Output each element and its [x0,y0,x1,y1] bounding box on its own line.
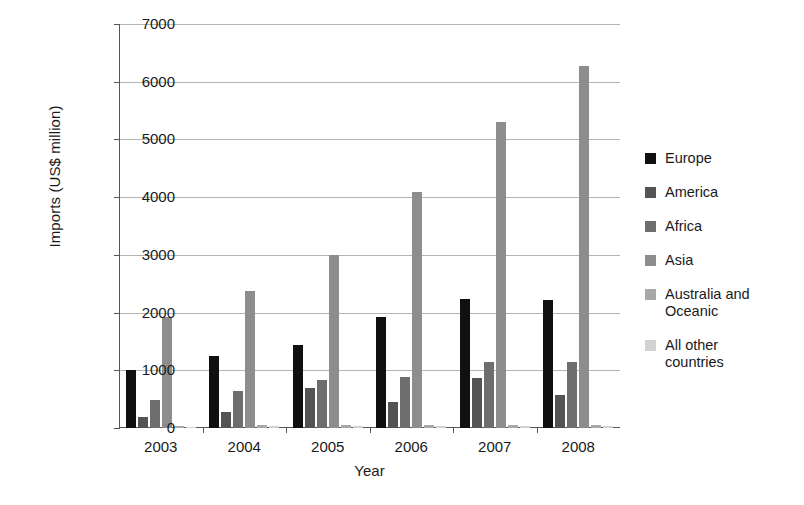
bar[interactable] [257,425,267,428]
bar[interactable] [245,291,255,428]
bar-group [203,24,287,428]
legend-item[interactable]: America [645,184,800,201]
plot-area [119,24,620,428]
bar-group [537,24,621,428]
bar[interactable] [520,426,530,428]
y-axis-title: Imports (US$ million) [46,27,63,327]
bar[interactable] [496,122,506,428]
bar[interactable] [567,362,577,428]
legend-swatch-icon [645,340,656,351]
bar[interactable] [400,377,410,428]
legend-swatch-icon [645,187,656,198]
legend-swatch-icon [645,255,656,266]
y-tick-label: 0 [115,420,175,435]
bar-group [286,24,370,428]
x-tick-mark [203,427,204,433]
legend-item[interactable]: All other countries [645,337,800,371]
x-tick-mark [537,427,538,433]
x-axis-title: Year [119,462,620,479]
y-tick-label: 4000 [115,189,175,204]
legend-item[interactable]: Europe [645,150,800,167]
y-tick-label: 7000 [115,16,175,31]
bar[interactable] [209,356,219,428]
x-tick-mark [286,427,287,433]
legend-item[interactable]: Asia [645,252,800,269]
bar[interactable] [305,388,315,428]
bar[interactable] [353,426,363,428]
y-tick-label: 1000 [115,362,175,377]
x-tick-label: 2003 [116,438,206,455]
x-tick-label: 2004 [199,438,289,455]
bar[interactable] [233,391,243,428]
bar[interactable] [317,380,327,428]
bar[interactable] [543,300,553,428]
x-tick-label: 2005 [283,438,373,455]
legend-label: Europe [665,150,712,167]
legend-label: All other countries [665,337,724,371]
legend-label: Africa [665,218,702,235]
x-tick-mark [370,427,371,433]
bar[interactable] [376,317,386,428]
x-tick-label: 2008 [533,438,623,455]
figure-container: Imports (US$ million) 010002000300040005… [0,0,804,505]
bar[interactable] [555,395,565,428]
bar[interactable] [269,426,279,428]
bar[interactable] [436,426,446,428]
bar[interactable] [508,425,518,428]
y-tick-label: 3000 [115,247,175,262]
legend: EuropeAmericaAfricaAsiaAustralia and Oce… [645,150,800,388]
bar[interactable] [293,345,303,428]
bar[interactable] [472,378,482,428]
bar[interactable] [591,425,601,428]
legend-swatch-icon [645,153,656,164]
legend-swatch-icon [645,289,656,300]
bar[interactable] [341,425,351,428]
bar[interactable] [424,425,434,428]
bar[interactable] [186,427,196,429]
bar[interactable] [412,192,422,428]
legend-label: Australia and Oceanic [665,286,750,320]
bar[interactable] [579,66,589,428]
legend-label: Asia [665,252,693,269]
y-tick-label: 2000 [115,305,175,320]
bar-group [370,24,454,428]
legend-swatch-icon [645,221,656,232]
legend-item[interactable]: Africa [645,218,800,235]
bar[interactable] [603,426,613,428]
x-tick-label: 2007 [450,438,540,455]
x-tick-label: 2006 [366,438,456,455]
y-tick-label: 6000 [115,74,175,89]
bar[interactable] [484,362,494,428]
bar[interactable] [329,255,339,428]
legend-label: America [665,184,718,201]
y-tick-label: 5000 [115,131,175,146]
bar-group [453,24,537,428]
bar[interactable] [174,426,184,428]
bar[interactable] [388,402,398,428]
bar[interactable] [460,299,470,428]
bar[interactable] [221,412,231,428]
x-tick-mark [453,427,454,433]
legend-item[interactable]: Australia and Oceanic [645,286,800,320]
